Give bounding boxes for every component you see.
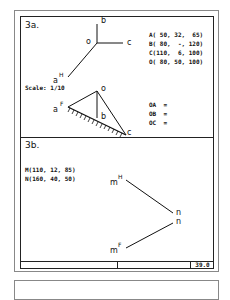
label-b-elev: b: [101, 112, 106, 121]
scale-label: Scale: 1/10: [25, 83, 65, 93]
label-a-plan-sup: H: [59, 71, 64, 78]
coord-n: N(160, 40, 50): [25, 174, 76, 184]
label-c-elev: c: [127, 128, 131, 137]
label-b-plan: b: [101, 16, 106, 25]
label-m-bottom: m: [110, 246, 118, 255]
section-b-title: 3b.: [25, 140, 39, 150]
coord-o: O( 80, 50, 100): [149, 57, 203, 67]
label-a-elev-sup: F: [60, 100, 63, 107]
page-number-box: 39.0: [190, 261, 214, 269]
footer-divider: [117, 261, 118, 269]
label-m-bottom-sup: F: [118, 241, 121, 248]
label-c-plan: c: [127, 38, 131, 47]
label-m-top: m: [110, 178, 118, 187]
label-m-top-sup: H: [118, 173, 123, 180]
label-n-top: n: [176, 208, 181, 217]
label-n-bottom: n: [176, 217, 181, 226]
label-o-elev: o: [101, 84, 106, 93]
answer-oc: OC =: [149, 118, 167, 128]
label-a-elev: a: [53, 105, 58, 114]
label-o-plan: o: [86, 37, 91, 46]
